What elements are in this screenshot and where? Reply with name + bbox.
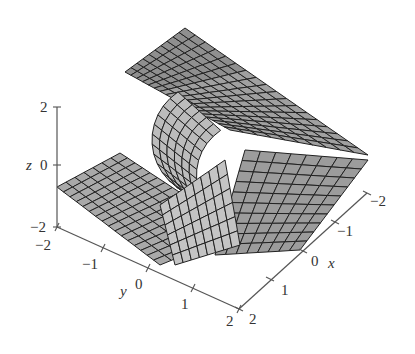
y-tick-label-neg1: −1 bbox=[82, 256, 98, 272]
x-tick-label-neg2: −2 bbox=[370, 193, 386, 209]
z-axis-label: z bbox=[25, 157, 32, 173]
y-tick-label-0: 0 bbox=[135, 276, 143, 292]
tick-mark bbox=[235, 307, 243, 311]
y-tick-label-neg2: −2 bbox=[35, 237, 51, 253]
y-axis-label: y bbox=[118, 283, 127, 299]
x-tick-label-2: 2 bbox=[249, 311, 257, 327]
x-tick-label-1: 1 bbox=[281, 282, 289, 298]
x-tick-label-0: 0 bbox=[311, 253, 319, 269]
surface-mesh bbox=[57, 28, 368, 265]
z-tick-label-neg2: −2 bbox=[30, 219, 46, 235]
surface-plot: 2 0 −2 z −2 −1 0 y 1 2 2 1 0 x −1 −2 bbox=[0, 0, 415, 354]
x-axis-label: x bbox=[327, 255, 335, 271]
tick-mark bbox=[299, 249, 307, 253]
mesh-cell bbox=[229, 231, 240, 248]
y-tick-label-2: 2 bbox=[226, 313, 234, 329]
x-tick-label-neg1: −1 bbox=[337, 223, 353, 239]
z-tick-label-0: 0 bbox=[40, 157, 48, 173]
y-tick-label-1: 1 bbox=[181, 296, 189, 312]
z-tick-label-2: 2 bbox=[40, 99, 48, 115]
